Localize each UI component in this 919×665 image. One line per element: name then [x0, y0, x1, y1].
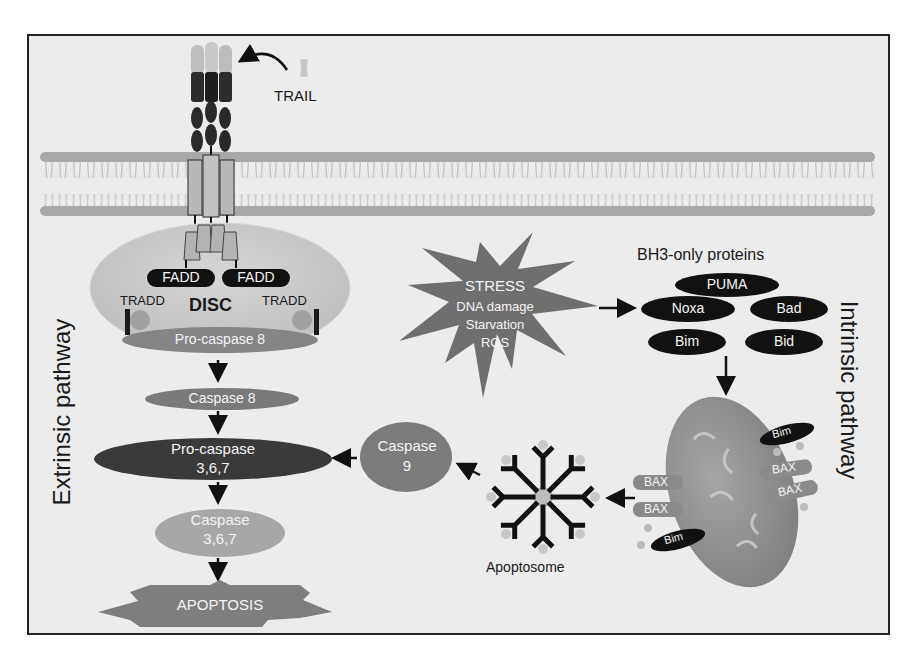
mito-bax-left-1: BAX: [644, 476, 668, 489]
procaspase8-label: Pro-caspase 8: [122, 332, 318, 347]
stress-item-ros: ROS: [440, 336, 550, 350]
tradd-left-label: TRADD: [120, 294, 165, 308]
apoptosome-icon: [486, 440, 600, 554]
caspase9-label-line2: 9: [362, 458, 452, 475]
trail-receptor-icon: [188, 42, 234, 227]
extrinsic-pathway-label: Extrinsic pathway: [48, 319, 76, 506]
mito-bax-left-2: BAX: [644, 503, 668, 516]
bh3-bid: Bid: [745, 334, 823, 349]
caspase8-label: Caspase 8: [145, 391, 299, 406]
apoptosis-label: APOPTOSIS: [140, 597, 300, 614]
trail-label: TRAIL: [274, 88, 317, 105]
stress-star: [399, 232, 598, 398]
caspase367-label-line2: 3,6,7: [155, 531, 285, 548]
fadd-left-label: FADD: [147, 270, 215, 285]
stress-item-dna-damage: DNA damage: [440, 300, 550, 314]
intrinsic-pathway-label: Intrinsic pathway: [835, 301, 863, 480]
trail-ligand-icon: [300, 59, 308, 77]
bh3-title: BH3-only proteins: [637, 246, 764, 264]
caspase367-label-line1: Caspase: [155, 512, 285, 529]
fadd-right-label: FADD: [222, 270, 290, 285]
bh3-puma: PUMA: [675, 277, 779, 292]
apoptosome-label: Apoptosome: [486, 560, 565, 575]
disc-label: DISC: [189, 296, 232, 316]
bh3-noxa: Noxa: [641, 301, 735, 316]
stress-item-starvation: Starvation: [440, 318, 550, 332]
procaspase367-label-line1: Pro-caspase: [94, 441, 332, 458]
procaspase367-label-line2: 3,6,7: [94, 460, 332, 477]
caspase9-label-line1: Caspase: [362, 438, 452, 455]
binding-arrow-icon: [242, 54, 287, 70]
cell-membrane: [40, 152, 875, 216]
bh3-bad: Bad: [750, 301, 828, 316]
tradd-right-label: TRADD: [262, 294, 307, 308]
stress-title: STRESS: [440, 278, 550, 295]
bh3-bim: Bim: [648, 334, 726, 349]
